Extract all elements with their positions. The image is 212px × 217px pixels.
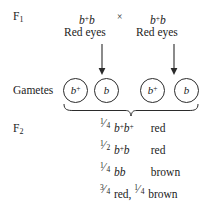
f1-label-text: F — [13, 10, 20, 22]
f2-genotype-2: b+b — [114, 143, 148, 155]
f2-result-row-2: 1 ⁄ 2 b+b red — [100, 142, 165, 156]
f1-parent-left-phenotype: Red eyes — [64, 26, 106, 38]
allele-b: b — [160, 14, 166, 26]
fraction-one-quarter: 1 ⁄ 4 — [100, 164, 111, 176]
f2-phenotypic-ratio-summary: 3 ⁄ 4 red, 1 ⁄ 4 brown — [100, 186, 178, 200]
gamete-circle-1: b+ — [63, 78, 88, 103]
gamete-circle-2: b — [94, 78, 119, 103]
fraction-denominator: 4 — [106, 187, 110, 196]
gamete-allele-3: b+ — [148, 85, 158, 96]
down-arrow-right — [166, 44, 182, 76]
gamete-allele-4: b — [184, 85, 190, 96]
f2-label-text: F — [13, 122, 20, 134]
f2-phenotype-2: red — [151, 144, 166, 156]
allele-b-plus: b+ — [150, 14, 160, 26]
fraction-denominator: 4 — [141, 187, 145, 196]
f2-label-subscript: 2 — [20, 127, 24, 136]
down-arrow-left — [94, 44, 110, 76]
fraction-denominator: 4 — [106, 121, 110, 130]
allele-b: b — [89, 14, 95, 26]
fraction-solidus: ⁄ — [103, 183, 105, 195]
genetic-cross-figure: F1 b+b × b+b Red eyes Red eyes Gametes b… — [0, 0, 212, 217]
cross-symbol: × — [117, 12, 122, 22]
superscript-plus: + — [130, 121, 134, 130]
fraction-denominator: 2 — [106, 143, 110, 152]
gamete-allele-1: b+ — [71, 85, 81, 96]
fraction-solidus: ⁄ — [103, 117, 105, 129]
fraction-solidus: ⁄ — [138, 183, 140, 195]
f2-phenotype-3: brown — [151, 166, 180, 178]
f2-phenotype-1: red — [151, 122, 166, 134]
f2-result-row-3: 1 ⁄ 4 bb brown — [100, 164, 180, 178]
fraction-one-half: 1 ⁄ 2 — [100, 142, 111, 154]
superscript-plus: + — [76, 84, 80, 93]
f2-result-row-1: 1 ⁄ 4 b+b+ red — [100, 120, 165, 134]
gamete-circle-4: b — [174, 78, 199, 103]
summary-phenotype-red: red, — [114, 188, 132, 200]
superscript-plus: + — [153, 84, 157, 93]
allele-b-plus: b+ — [79, 14, 89, 26]
gametes-row-label: Gametes — [13, 84, 53, 96]
f1-label-subscript: 1 — [20, 15, 24, 24]
fraction-one-quarter: 1 ⁄ 4 — [100, 120, 111, 132]
gamete-circle-3: b+ — [140, 78, 165, 103]
f2-row-label: F2 — [13, 122, 24, 136]
fraction-solidus: ⁄ — [103, 139, 105, 151]
f1-parent-right-phenotype: Red eyes — [136, 26, 178, 38]
f2-genotype-3: bb — [114, 165, 148, 177]
gamete-allele-2: b — [104, 85, 110, 96]
gametes-brace — [63, 103, 199, 117]
fraction-denominator: 4 — [106, 165, 110, 174]
f2-genotype-1: b+b+ — [114, 121, 148, 133]
fraction-three-quarters: 3 ⁄ 4 — [100, 186, 111, 198]
f1-row-label: F1 — [13, 10, 24, 24]
summary-phenotype-brown: brown — [148, 188, 177, 200]
fraction-one-quarter: 1 ⁄ 4 — [134, 186, 145, 198]
fraction-solidus: ⁄ — [103, 161, 105, 173]
